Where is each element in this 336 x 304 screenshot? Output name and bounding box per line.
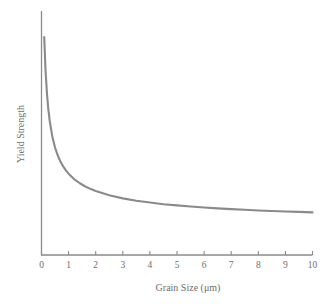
x-axis-tick-label: 7 bbox=[229, 260, 234, 270]
x-axis-tick-label: 8 bbox=[256, 260, 261, 270]
x-axis-tick-label: 4 bbox=[148, 260, 153, 270]
data-series-curve bbox=[44, 37, 312, 212]
x-axis-tick-labels: 012345678910 bbox=[39, 260, 317, 270]
x-axis-tick-label: 2 bbox=[93, 260, 98, 270]
x-axis-tick-label: 6 bbox=[202, 260, 207, 270]
chart-plot-area: 012345678910 Grain Size (μm) Yield Stren… bbox=[0, 0, 336, 304]
chart-container: 012345678910 Grain Size (μm) Yield Stren… bbox=[0, 0, 336, 304]
y-axis-title: Yield Strength bbox=[15, 105, 26, 163]
x-axis-tick-label: 3 bbox=[120, 260, 125, 270]
x-axis-tick-label: 5 bbox=[175, 260, 180, 270]
x-axis-tick-label: 0 bbox=[39, 260, 44, 270]
x-axis-tick-label: 1 bbox=[66, 260, 71, 270]
x-axis-tick-label: 9 bbox=[283, 260, 288, 270]
axes-group bbox=[41, 11, 313, 256]
x-axis-tick-label: 10 bbox=[308, 260, 318, 270]
x-axis-title: Grain Size (μm) bbox=[156, 282, 221, 294]
